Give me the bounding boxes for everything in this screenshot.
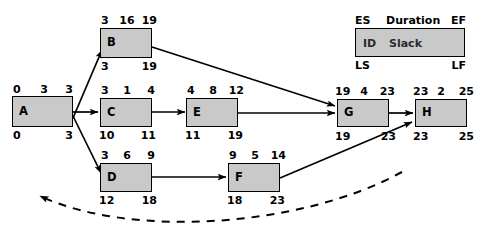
node-d-lf: 18	[142, 195, 157, 206]
node-g[interactable]: G	[337, 99, 389, 127]
legend-ls-label: LS	[355, 60, 370, 71]
node-h-duration: 2	[437, 86, 445, 97]
node-e-ef: 12	[229, 85, 244, 96]
node-b-lf: 19	[142, 61, 157, 72]
node-a[interactable]: A	[12, 96, 73, 127]
edge-feedback-dashed	[40, 172, 402, 222]
node-c-lf: 11	[141, 130, 156, 141]
node-e[interactable]: E	[186, 98, 238, 127]
legend-lf-label: LF	[451, 60, 466, 71]
node-d[interactable]: D	[100, 163, 152, 192]
node-f-id: F	[235, 172, 243, 184]
legend-id-label: ID	[363, 38, 376, 49]
node-e-es: 4	[187, 85, 195, 96]
legend-ef-label: EF	[451, 15, 466, 26]
node-a-lf: 3	[65, 130, 73, 141]
legend-es-label: ES	[355, 15, 370, 26]
node-e-lf: 19	[228, 130, 243, 141]
node-f-es: 9	[229, 150, 237, 161]
node-f-duration: 5	[251, 150, 259, 161]
node-d-id: D	[107, 172, 117, 184]
node-g-lf: 23	[381, 131, 396, 142]
node-g-ls: 19	[335, 131, 350, 142]
edge-a-b	[73, 50, 102, 118]
node-h-es: 23	[413, 86, 428, 97]
node-f-ls: 18	[227, 195, 242, 206]
node-c-ls: 10	[99, 130, 114, 141]
node-a-es: 0	[13, 84, 21, 95]
node-g-duration: 4	[360, 86, 368, 97]
node-d-es: 3	[101, 150, 109, 161]
node-g-ef: 23	[380, 86, 395, 97]
node-c[interactable]: C	[100, 98, 152, 127]
node-c-es: 3	[101, 85, 109, 96]
node-b-es: 3	[101, 15, 109, 26]
node-f-lf: 23	[270, 195, 285, 206]
node-d-duration: 6	[123, 150, 131, 161]
node-f-ef: 14	[271, 150, 286, 161]
node-a-duration: 3	[40, 84, 48, 95]
node-e-ls: 11	[185, 130, 200, 141]
node-h-ef: 25	[459, 86, 474, 97]
node-g-id: G	[344, 107, 353, 119]
node-h-lf: 25	[459, 131, 474, 142]
legend-slack-label: Slack	[389, 38, 422, 49]
node-h-ls: 23	[413, 131, 428, 142]
node-h-id: H	[422, 107, 432, 119]
node-f[interactable]: F	[228, 163, 280, 192]
node-c-ef: 4	[147, 85, 155, 96]
network-diagram-canvas: A 0 3 3 0 3 B 3 16 19 3 19 C 3 1 4 10 11…	[0, 0, 494, 248]
node-d-ls: 12	[99, 195, 114, 206]
node-b-ef: 19	[142, 15, 157, 26]
node-c-id: C	[107, 107, 115, 119]
node-g-es: 19	[335, 86, 350, 97]
node-a-ls: 0	[13, 130, 21, 141]
node-c-duration: 1	[123, 85, 131, 96]
node-a-id: A	[19, 106, 28, 118]
node-b[interactable]: B	[100, 28, 152, 58]
node-e-id: E	[193, 107, 201, 119]
node-b-duration: 16	[119, 15, 134, 26]
node-e-duration: 8	[209, 85, 217, 96]
edge-b-g	[152, 47, 335, 106]
node-d-ef: 9	[147, 150, 155, 161]
node-b-id: B	[107, 37, 116, 49]
legend-duration-label: Duration	[386, 15, 440, 26]
node-h[interactable]: H	[415, 99, 467, 127]
node-b-ls: 3	[101, 61, 109, 72]
node-a-ef: 3	[65, 84, 73, 95]
edge-a-d	[73, 116, 101, 173]
